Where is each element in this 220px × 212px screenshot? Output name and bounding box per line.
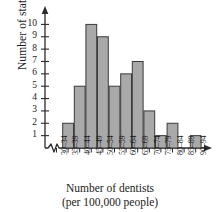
x-axis-tick-label: 35–39	[71, 136, 80, 155]
histogram-figure: Number of states Number of dentists (per…	[0, 0, 220, 212]
x-axis-tick-label: 85–89	[187, 136, 196, 155]
y-axis-tick-label: 5	[21, 80, 37, 90]
x-axis-tick-label: 45–49	[95, 136, 104, 155]
x-axis-tick-label: 90–94	[199, 136, 208, 155]
x-axis-title-line1: Number of dentists	[66, 182, 154, 194]
x-axis-title-line2: (per 100,000 people)	[0, 196, 220, 210]
x-axis-tick-label: 50–54	[106, 136, 115, 155]
histogram-bar	[86, 24, 97, 148]
x-axis-tick-label: 40–44	[83, 136, 92, 155]
x-axis-tick-label: 80–84	[176, 136, 185, 155]
x-axis-title: Number of dentists (per 100,000 people)	[0, 182, 220, 209]
y-axis-tick-label: 1	[21, 129, 37, 139]
x-axis-tick-label: 30–34	[60, 136, 69, 155]
y-axis-tick-label: 9	[21, 30, 37, 40]
y-axis-tick-label: 8	[21, 43, 37, 53]
y-axis-tick-label: 10	[21, 18, 37, 28]
y-axis-tick-label: 3	[21, 104, 37, 114]
x-axis-tick-label: 60–64	[129, 136, 138, 155]
y-axis-tick-label: 4	[21, 92, 37, 102]
y-axis-tick-label: 2	[21, 117, 37, 127]
y-axis-tick-label: 7	[21, 55, 37, 65]
y-axis-arrow-icon	[42, 6, 49, 14]
x-axis-tick-label: 55–59	[118, 136, 127, 155]
histogram-bar	[98, 37, 109, 148]
x-axis-tick-label: 75–79	[164, 136, 173, 155]
y-axis-tick-label: 6	[21, 67, 37, 77]
x-axis-tick-label: 65–69	[141, 136, 150, 155]
x-axis-tick-label: 70–74	[153, 136, 162, 155]
